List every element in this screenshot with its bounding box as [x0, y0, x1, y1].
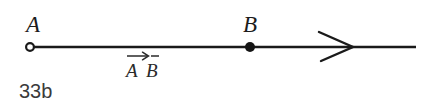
point-a-label: A — [26, 13, 40, 36]
vector-ab-notation: A B — [126, 50, 160, 80]
vector-ray-figure: A B A B 33b — [0, 0, 429, 106]
figure-caption: 33b — [19, 81, 52, 101]
point-a-open-circle-icon — [26, 43, 34, 51]
vector-arrow-overbar-icon — [126, 50, 162, 62]
vector-ab-text: A B — [126, 61, 160, 80]
point-b-label: B — [243, 13, 257, 36]
point-b-filled-dot-icon — [245, 42, 255, 52]
ray-diagram-canvas — [0, 0, 429, 106]
